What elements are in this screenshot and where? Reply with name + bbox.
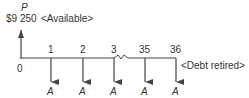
period-label-3: 3 [111,44,117,55]
payment-label-2: A [79,86,86,97]
payment-label-36: A [172,86,179,97]
payment-label-1: A [47,86,54,97]
period-label-2: 2 [80,44,86,55]
period-label-35: 35 [139,44,150,55]
period-label-36: 36 [170,44,181,55]
period-label-0: 0 [17,63,23,74]
present-value-symbol: P [21,2,28,13]
payment-label-3: A [110,86,117,97]
cash-flow-diagram [0,0,249,98]
present-value-amount: $9 250 [6,13,37,24]
debt-retired-note: <Debt retired> [181,60,245,71]
period-label-1: 1 [48,44,54,55]
payment-label-35: A [141,86,148,97]
timeline-break-icon [114,55,128,59]
present-value-note: <Available> [41,13,93,24]
